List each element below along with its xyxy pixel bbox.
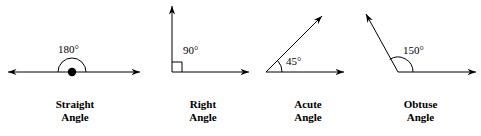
caption-right-angle: Right Angle [150, 98, 256, 124]
acute-angle-arc [278, 61, 282, 72]
right-angle-degree-label: 90° [183, 45, 198, 56]
caption-line-1: Straight [0, 98, 150, 111]
obtuse-angle-degree-label: 150° [403, 45, 424, 56]
obtuse-angle-ray-diagonal [366, 14, 398, 72]
caption-straight-angle: Straight Angle [0, 98, 150, 124]
right-angle-square-marker [172, 62, 182, 72]
figure-straight-angle: 180° Straight Angle [0, 0, 150, 136]
figure-acute-angle: 45° Acute Angle [256, 0, 360, 136]
caption-line-1: Acute [256, 98, 360, 111]
figure-obtuse-angle: 150° Obtuse Angle [360, 0, 481, 136]
acute-angle-degree-label: 45° [286, 56, 301, 67]
caption-obtuse-angle: Obtuse Angle [360, 98, 481, 124]
caption-acute-angle: Acute Angle [256, 98, 360, 124]
obtuse-angle-arc [390, 57, 413, 72]
acute-angle-drawing [256, 0, 360, 90]
caption-line-2: Angle [360, 111, 481, 124]
caption-line-2: Angle [0, 111, 150, 124]
caption-line-1: Right [150, 98, 256, 111]
right-angle-drawing [150, 0, 256, 90]
straight-angle-vertex-dot [68, 68, 76, 76]
angles-diagram: 180° Straight Angle 90° Right [0, 0, 481, 136]
figure-right-angle: 90° Right Angle [150, 0, 256, 136]
caption-line-2: Angle [150, 111, 256, 124]
caption-line-1: Obtuse [360, 98, 481, 111]
straight-angle-degree-label: 180° [58, 44, 79, 55]
caption-line-2: Angle [256, 111, 360, 124]
